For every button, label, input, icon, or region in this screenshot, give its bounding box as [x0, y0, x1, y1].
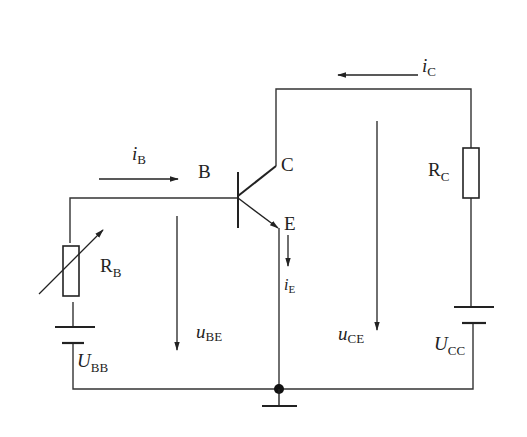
ib-label: iB	[132, 143, 146, 167]
emitter-label: E	[284, 213, 296, 234]
base-label: B	[198, 161, 211, 182]
ground-icon	[262, 384, 297, 406]
collector-label: C	[281, 154, 294, 175]
collector-resistor	[463, 148, 479, 198]
uce-label: uCE	[338, 323, 364, 346]
circuit-diagram: C B E RB UBB RC UCC iB iC iE uBE uCE	[0, 0, 527, 437]
transistor-npn	[238, 166, 278, 228]
base-supply-label: UBB	[77, 350, 108, 375]
wires	[70, 89, 473, 389]
ie-label: iE	[284, 276, 295, 295]
base-resistor-label: RB	[100, 255, 122, 280]
ube-label: uBE	[196, 321, 222, 344]
base-resistor	[39, 230, 103, 296]
collector-resistor-label: RC	[428, 159, 449, 184]
ic-label: iC	[422, 55, 436, 79]
collector-supply-label: UCC	[434, 333, 465, 358]
collector-supply-battery	[454, 307, 494, 323]
base-supply-battery	[55, 327, 95, 343]
